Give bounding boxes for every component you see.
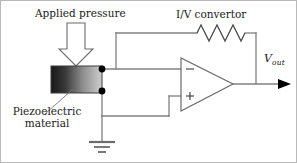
iv-convertor-label: I/V convertor [176, 8, 246, 20]
piezoelectric-material-block [51, 66, 102, 93]
diagram-canvas [1, 1, 297, 163]
applied-pressure-label: Applied pressure [35, 7, 126, 19]
circuit-diagram-figure: Applied pressure I/V convertor Piezoelec… [0, 0, 297, 163]
vout-subscript: out [272, 58, 285, 67]
vout-symbol: V [264, 52, 272, 65]
top-electrode-node [99, 66, 106, 73]
piezoelectric-material-label-line2: material [5, 117, 89, 129]
vout-arrowhead [278, 79, 291, 89]
applied-pressure-arrow [59, 23, 93, 66]
operational-amplifier [181, 58, 233, 111]
feedback-resistor [197, 25, 245, 41]
ground-symbol [89, 142, 115, 152]
bottom-electrode-node [99, 88, 106, 95]
vout-label: Vout [264, 53, 285, 68]
piezoelectric-material-label-line1: Piezoelectric [5, 105, 89, 117]
piezoelectric-material-label: Piezoelectric material [5, 105, 89, 129]
